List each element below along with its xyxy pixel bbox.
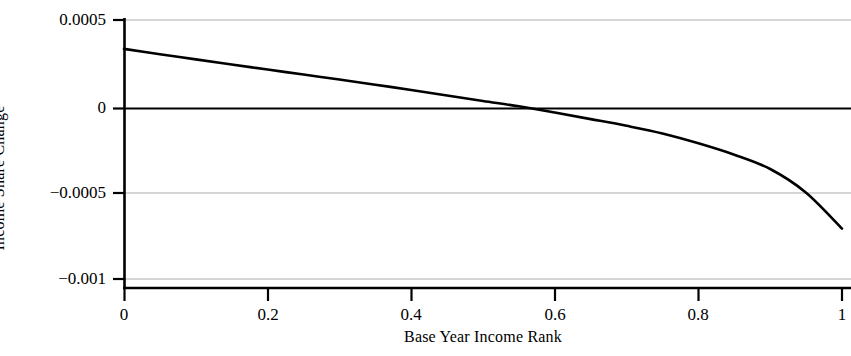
x-tick-label-0.6: 0.6 (544, 305, 565, 325)
x-axis-title: Base Year Income Rank (124, 328, 842, 346)
x-tick-label-1: 1 (838, 305, 847, 325)
x-tick-label-0.4: 0.4 (400, 305, 421, 325)
y-tick-label-minus-0.001: −0.001 (20, 269, 106, 289)
x-tick-label-0.8: 0.8 (687, 305, 708, 325)
x-tick-label-0.2: 0.2 (257, 305, 278, 325)
y-tick-label-0.0005: 0.0005 (20, 10, 106, 30)
chart-figure: 0.0005 0 −0.0005 −0.001 0 0.2 0.4 0.6 0.… (0, 0, 851, 356)
chart-background (0, 0, 851, 356)
y-tick-label-0: 0 (20, 98, 106, 118)
y-tick-label-minus-0.0005: −0.0005 (20, 183, 106, 203)
x-tick-label-0: 0 (120, 305, 129, 325)
line-chart-plot (0, 0, 851, 356)
